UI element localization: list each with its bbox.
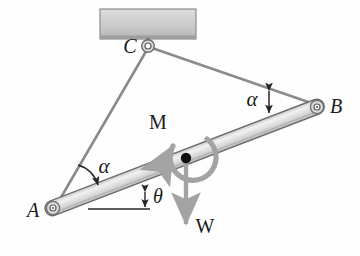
label-point-c: C	[123, 35, 137, 57]
label-theta: θ	[153, 185, 163, 207]
physics-diagram-figure: A B C M W α α θ	[0, 0, 360, 256]
pin-joint-b	[310, 100, 323, 113]
label-alpha-left: α	[98, 154, 110, 178]
diagram-canvas: A B C M W α α θ	[0, 0, 360, 256]
label-point-b: B	[330, 95, 342, 117]
ceiling-support	[100, 9, 196, 39]
label-point-a: A	[25, 199, 40, 221]
label-alpha-right: α	[246, 87, 258, 111]
bar-center-point	[181, 153, 191, 163]
pin-joint-c	[142, 40, 155, 53]
angle-alpha-left-marker	[78, 165, 98, 185]
cable-cb	[152, 48, 314, 104]
label-moment-m: M	[149, 111, 167, 133]
label-weight-w: W	[196, 215, 215, 237]
pin-joint-a	[46, 201, 59, 214]
